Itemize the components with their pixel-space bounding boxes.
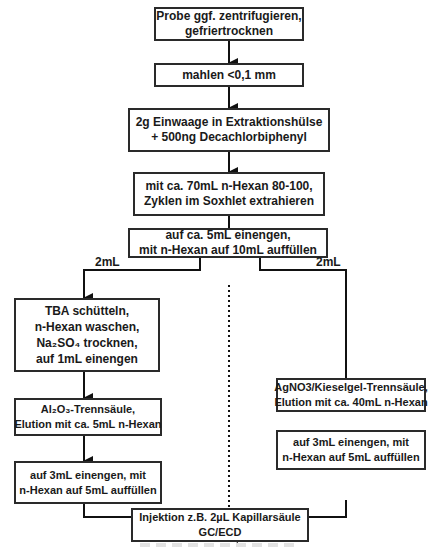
step-right-auffuellen: auf 3mL einengen, mit n-Hexan auf 5mL au… <box>276 430 426 470</box>
step-probe: Probe ggf. zentrifugieren, gefriertrockn… <box>154 7 304 41</box>
step-einwaage: 2g Einwaage in Extraktionshülse + 500ng … <box>128 108 330 152</box>
step-einengen: auf ca. 5mL einengen, mit n-Hexan auf 10… <box>128 228 328 258</box>
step-injektion: Injektion z.B. 2µL Kapillarsäule GC/ECD <box>131 508 309 542</box>
step-tba: TBA schütteln, n-Hexan waschen, Na₂SO₄ t… <box>14 298 160 372</box>
step-soxhlet: mit ca. 70mL n-Hexan 80-100, Zyklen im S… <box>133 172 325 216</box>
step-mahlen: mahlen <0,1 mm <box>154 63 304 87</box>
branch-label-right: 2mL <box>316 255 341 269</box>
step-agno3: AgNO3/Kieselgel-Trennsäule, Elution mit … <box>276 378 426 412</box>
step-al2o3: Al₂O₃-Trennsäule, Elution mit ca. 5mL n-… <box>14 398 162 436</box>
step-left-auffuellen: auf 3mL einengen, mit n-Hexan auf 5mL au… <box>14 461 162 504</box>
branch-label-left: 2mL <box>95 255 120 269</box>
truncated-caption <box>140 543 300 547</box>
